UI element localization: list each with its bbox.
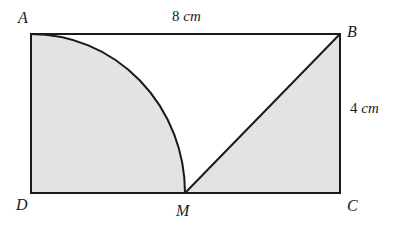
dimension-unit-top: cm: [183, 8, 201, 24]
geometry-figure: A B C D M 8 cm 4 cm: [0, 0, 405, 228]
dimension-value-right: 4: [350, 100, 358, 116]
vertex-label-c: C: [347, 198, 358, 214]
geometry-canvas: [0, 0, 405, 228]
vertex-label-b: B: [347, 24, 357, 40]
vertex-label-d: D: [16, 197, 28, 213]
dimension-label-top-width: 8 cm: [172, 9, 201, 24]
vertex-label-a: A: [18, 10, 28, 26]
vertex-label-m: M: [176, 203, 189, 219]
dimension-unit-right: cm: [361, 100, 379, 116]
dimension-label-right-height: 4 cm: [350, 101, 379, 116]
dimension-value-top: 8: [172, 8, 180, 24]
